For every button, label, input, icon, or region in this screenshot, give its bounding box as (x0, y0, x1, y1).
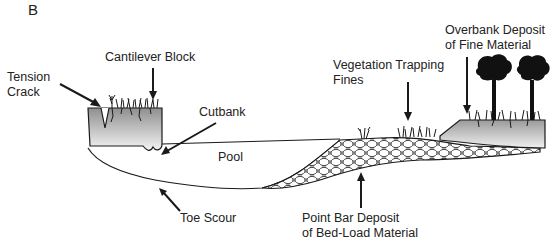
label-line: of Bed-Load Material (302, 226, 418, 241)
label-cutbank: Cutbank (199, 105, 246, 120)
label-line: Crack (7, 85, 50, 100)
label-pool: Pool (218, 150, 243, 165)
cutbank-arrow (167, 123, 216, 151)
label-tension-crack: Tension Crack (7, 70, 50, 100)
label-toe-scour: Toe Scour (180, 211, 236, 226)
label-vegetation-trapping-fines: Vegetation Trapping Fines (333, 58, 444, 88)
label-overbank-deposit: Overbank Deposit of Fine Material (445, 23, 545, 53)
cantilever-bank-block (88, 95, 162, 150)
label-point-bar-deposit: Point Bar Deposit of Bed-Load Material (302, 211, 418, 241)
label-line: Point Bar Deposit (302, 211, 418, 226)
label-line: Overbank Deposit (445, 23, 545, 38)
label-line: of Fine Material (445, 38, 545, 53)
label-line: Vegetation Trapping (333, 58, 444, 73)
panel-label: B (28, 1, 38, 18)
label-line: Tension (7, 70, 50, 85)
label-line: Fines (333, 73, 444, 88)
tree-icon (476, 54, 512, 120)
label-cantilever-block: Cantilever Block (105, 50, 195, 65)
tree-icon (517, 55, 550, 120)
tension-crack-arrow (60, 84, 97, 104)
toe-scour-arrow (163, 192, 180, 211)
